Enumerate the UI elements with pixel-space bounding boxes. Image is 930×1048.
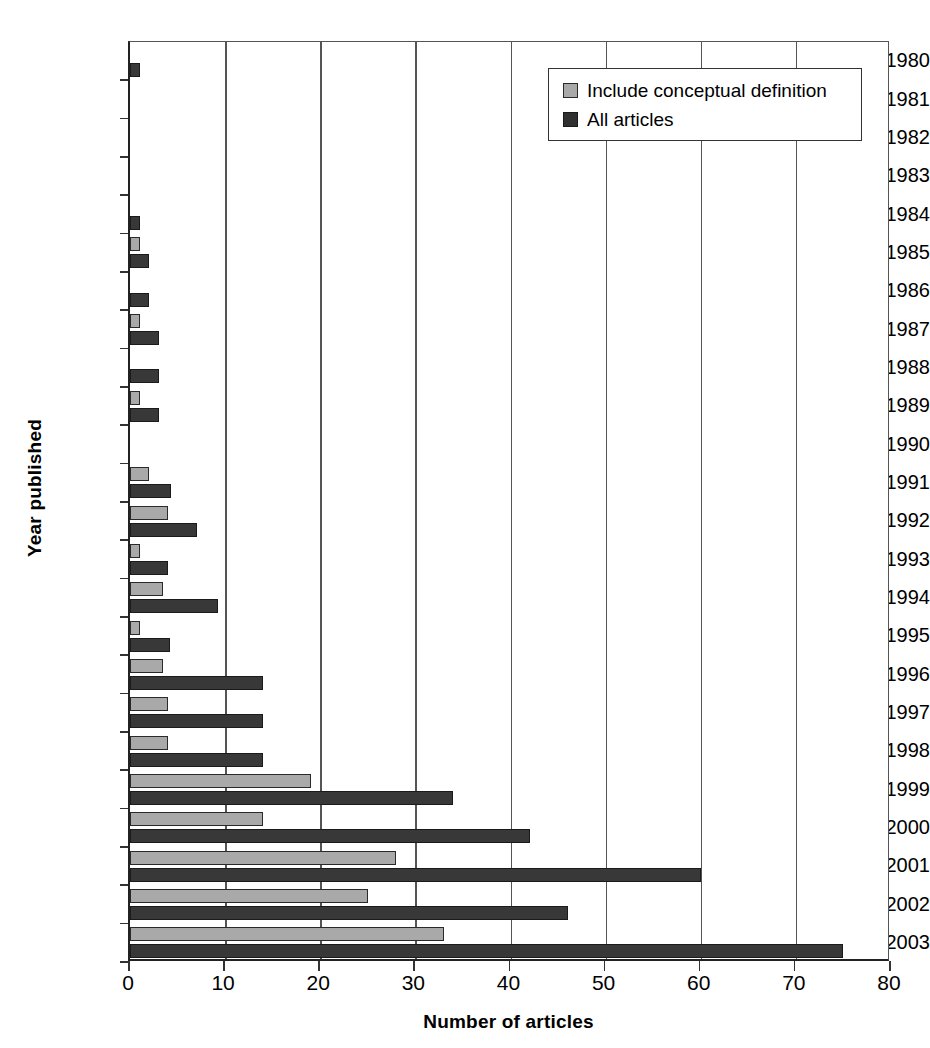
legend-label: Include conceptual definition: [587, 81, 827, 100]
bar-include-conceptual-definition: [130, 736, 168, 750]
x-tick-label-70: 70: [764, 971, 824, 995]
x-tick-mark-0: [128, 961, 130, 971]
bar-row: [130, 502, 888, 540]
bar-all-articles: [130, 331, 159, 345]
legend-swatch-light-icon: [563, 83, 578, 98]
bar-include-conceptual-definition: [130, 659, 163, 673]
bar-all-articles: [130, 791, 453, 805]
y-axis-title: Year published: [24, 358, 46, 618]
bar-all-articles: [130, 829, 530, 843]
bar-include-conceptual-definition: [130, 774, 311, 788]
bar-row: [130, 272, 888, 310]
bar-all-articles: [130, 561, 168, 575]
bar-include-conceptual-definition: [130, 889, 368, 903]
x-tick-mark-40: [509, 961, 511, 971]
bar-row: [130, 425, 888, 463]
bar-include-conceptual-definition: [130, 467, 149, 481]
bar-all-articles: [130, 523, 197, 537]
legend-swatch-dark-icon: [563, 112, 578, 127]
bar-row: [130, 310, 888, 348]
bar-include-conceptual-definition: [130, 314, 140, 328]
x-tick-mark-50: [604, 961, 606, 971]
bar-include-conceptual-definition: [130, 927, 444, 941]
bar-all-articles: [130, 944, 843, 958]
x-tick-label-20: 20: [288, 971, 348, 995]
plot-area: [128, 41, 889, 961]
bar-all-articles: [130, 638, 170, 652]
bar-include-conceptual-definition: [130, 544, 140, 558]
legend-label: All articles: [587, 110, 674, 129]
x-tick-label-60: 60: [669, 971, 729, 995]
bar-row: [130, 770, 888, 808]
legend: Include conceptual definitionAll article…: [548, 68, 862, 141]
bar-include-conceptual-definition: [130, 697, 168, 711]
bar-include-conceptual-definition: [130, 812, 263, 826]
bar-all-articles: [130, 293, 149, 307]
bar-chart: Year published 1980198119821983198419851…: [0, 0, 930, 1048]
bar-all-articles: [130, 484, 171, 498]
bar-all-articles: [130, 408, 159, 422]
bar-include-conceptual-definition: [130, 391, 140, 405]
bar-row: [130, 809, 888, 847]
x-tick-label-50: 50: [574, 971, 634, 995]
legend-entry: Include conceptual definition: [563, 76, 861, 105]
bar-all-articles: [130, 714, 263, 728]
x-tick-mark-20: [318, 961, 320, 971]
bar-include-conceptual-definition: [130, 582, 163, 596]
bar-all-articles: [130, 216, 140, 230]
bar-all-articles: [130, 63, 140, 77]
x-tick-label-40: 40: [479, 971, 539, 995]
bar-all-articles: [130, 676, 263, 690]
bar-row: [130, 464, 888, 502]
bar-row: [130, 617, 888, 655]
bar-row: [130, 885, 888, 923]
x-tick-label-0: 0: [98, 971, 158, 995]
bar-row: [130, 157, 888, 195]
x-tick-mark-80: [889, 961, 891, 971]
bar-include-conceptual-definition: [130, 506, 168, 520]
x-tick-mark-10: [223, 961, 225, 971]
bar-row: [130, 234, 888, 272]
bar-all-articles: [130, 868, 701, 882]
bar-row: [130, 924, 888, 962]
bar-row: [130, 847, 888, 885]
x-tick-label-80: 80: [859, 971, 919, 995]
bar-row: [130, 655, 888, 693]
bar-all-articles: [130, 599, 218, 613]
bar-row: [130, 694, 888, 732]
bar-row: [130, 540, 888, 578]
x-axis-title: Number of articles: [128, 1011, 889, 1033]
bar-include-conceptual-definition: [130, 621, 140, 635]
legend-entry: All articles: [563, 105, 861, 134]
x-tick-mark-70: [794, 961, 796, 971]
x-tick-mark-30: [413, 961, 415, 971]
bar-row: [130, 387, 888, 425]
x-tick-label-10: 10: [193, 971, 253, 995]
bar-row: [130, 349, 888, 387]
bar-include-conceptual-definition: [130, 237, 140, 251]
bar-row: [130, 579, 888, 617]
bar-all-articles: [130, 254, 149, 268]
x-tick-mark-60: [699, 961, 701, 971]
bar-all-articles: [130, 753, 263, 767]
bar-all-articles: [130, 906, 568, 920]
bar-all-articles: [130, 369, 159, 383]
bar-row: [130, 732, 888, 770]
x-tick-label-30: 30: [383, 971, 443, 995]
bar-rows: [130, 42, 888, 959]
bar-row: [130, 195, 888, 233]
bar-include-conceptual-definition: [130, 851, 396, 865]
